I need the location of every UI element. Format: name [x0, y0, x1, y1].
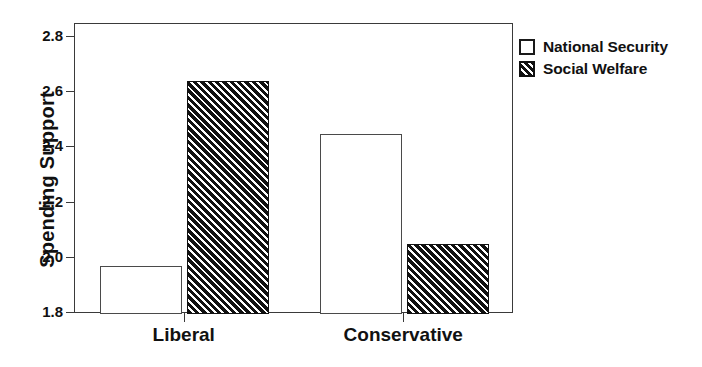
legend-swatch-hatched-icon: [519, 61, 535, 77]
plot-area: [74, 23, 513, 313]
y-axis-tick-label: 2.2: [42, 193, 63, 210]
y-axis-tick-label: 2.8: [42, 27, 63, 44]
x-axis-category-label-liberal: Liberal: [74, 324, 294, 346]
legend-swatch-open-icon: [519, 39, 535, 55]
legend-item-national-security: National Security: [519, 36, 697, 57]
bar-chart-figure: Spending Support 2.82.62.42.22.01.8 Libe…: [0, 0, 702, 367]
bar-conservative-national-security: [320, 134, 402, 314]
legend-label-social-welfare: Social Welfare: [543, 60, 647, 78]
y-axis-tick-label: 1.8: [42, 303, 63, 320]
bar-liberal-national-security: [100, 266, 182, 314]
x-axis-tick-mark-liberal: [184, 313, 185, 322]
y-axis-tick-label: 2.0: [42, 248, 63, 265]
legend-item-social-welfare: Social Welfare: [519, 58, 697, 79]
x-axis-category-label-conservative: Conservative: [293, 324, 513, 346]
bar-conservative-social-welfare: [407, 244, 489, 314]
x-axis-tick-mark-conservative: [403, 313, 404, 322]
y-axis-tick-label: 2.6: [42, 82, 63, 99]
legend: National Security Social Welfare: [519, 36, 697, 80]
y-axis-tick-label: 2.4: [42, 137, 63, 154]
legend-label-national-security: National Security: [543, 38, 668, 56]
bar-liberal-social-welfare: [187, 81, 269, 314]
